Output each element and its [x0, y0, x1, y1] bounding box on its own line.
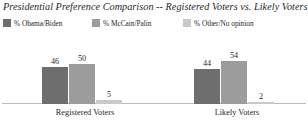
- bar-value-label: 2: [240, 92, 282, 101]
- category-label-likely-voters: Likely Voters: [172, 108, 302, 117]
- legend-item-obama-biden[interactable]: % Obama/Biden: [3, 15, 62, 26]
- bar-group-bars: 44 54 2: [172, 28, 302, 104]
- legend-swatch-other-no-opinion: [183, 19, 191, 27]
- category-label-registered-voters: Registered Voters: [20, 108, 150, 117]
- chart-title: Presidential Preference Comparison -- Re…: [3, 0, 305, 13]
- chart-legend: % Obama/Biden % McCain/Palin % Other/No …: [3, 15, 305, 26]
- bar-group-likely-voters: 44 54 2 Likely Voters: [172, 28, 302, 130]
- plot-area: 46 50 5 Registered Voters 44: [0, 28, 308, 130]
- legend-item-other-no-opinion[interactable]: % Other/No opinion: [183, 15, 254, 26]
- bar-group-registered-voters: 46 50 5 Registered Voters: [20, 28, 150, 130]
- bar-other-no-opinion[interactable]: [248, 102, 274, 104]
- legend-swatch-mccain-palin: [92, 19, 100, 27]
- bar-other-no-opinion[interactable]: [96, 100, 122, 104]
- legend-item-mccain-palin[interactable]: % McCain/Palin: [92, 15, 151, 26]
- bar-obama-biden[interactable]: [194, 69, 220, 104]
- chart-container: Presidential Preference Comparison -- Re…: [0, 0, 308, 130]
- bar-value-label: 5: [88, 90, 130, 99]
- bar-group-bars: 46 50 5: [20, 28, 150, 104]
- bar-obama-biden[interactable]: [42, 67, 68, 104]
- bar-value-label: 50: [61, 54, 103, 63]
- legend-swatch-obama-biden: [3, 19, 11, 27]
- bar-value-label: 54: [213, 51, 255, 60]
